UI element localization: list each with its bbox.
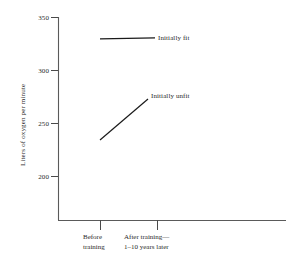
y-tick-label-300: 300 <box>26 67 49 75</box>
x-category-before-training-line2: training <box>83 243 105 253</box>
x-category-before-training-line1: Before <box>83 233 105 243</box>
x-category-before-training: Before training <box>83 233 105 252</box>
x-category-after-training-line1: After training— <box>124 233 169 243</box>
oxygen-uptake-line-chart: 350 300 250 200 Liters of oxygen per min… <box>0 0 291 263</box>
series-label-initially-fit: Initially fit <box>158 34 189 42</box>
series-line-initially-fit <box>100 38 155 39</box>
plot-area <box>0 0 291 263</box>
y-tick-label-200: 200 <box>26 173 49 181</box>
x-category-after-training-line2: 1–10 years later <box>124 243 169 253</box>
series-label-initially-unfit: Initially unfit <box>151 92 190 100</box>
y-axis-title: Liters of oxygen per minute <box>19 84 27 166</box>
series-line-initially-unfit <box>100 99 148 140</box>
y-tick-label-350: 350 <box>26 14 49 22</box>
y-tick-label-250: 250 <box>26 120 49 128</box>
x-category-after-training: After training— 1–10 years later <box>124 233 169 252</box>
